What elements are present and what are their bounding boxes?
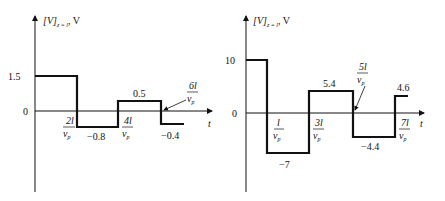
right-tick-l-vp: l vp bbox=[273, 117, 284, 142]
left-plot: [V]z = l, V t 1.5 0 2l vp 4l vp 6l vp −0… bbox=[8, 15, 212, 192]
svg-text:3l: 3l bbox=[314, 117, 323, 128]
left-tick-2l-vp: 2l vp bbox=[63, 115, 75, 140]
left-value-neg0.8: −0.8 bbox=[87, 131, 105, 142]
svg-text:2l: 2l bbox=[66, 115, 74, 126]
right-ytick-10: 10 bbox=[225, 55, 235, 66]
svg-text:vp: vp bbox=[313, 130, 320, 142]
svg-text:7l: 7l bbox=[401, 117, 409, 128]
svg-text:vp: vp bbox=[399, 130, 406, 142]
left-value-0.5: 0.5 bbox=[133, 88, 146, 99]
svg-text:vp: vp bbox=[187, 93, 194, 105]
right-tick-5l-vp: 5l vp bbox=[355, 61, 368, 110]
right-value-neg4.4: −4.4 bbox=[361, 141, 379, 152]
right-ytick-0: 0 bbox=[232, 108, 237, 119]
right-value-neg7: −7 bbox=[279, 159, 290, 170]
right-plot: [V]z = l, V t 10 0 l vp 3l vp 5l vp 7l v… bbox=[225, 15, 424, 192]
left-xlabel: t bbox=[208, 118, 211, 129]
right-xlabel: t bbox=[420, 118, 423, 129]
right-value-5.4: 5.4 bbox=[323, 78, 336, 89]
diagram-canvas: [V]z = l, V t 1.5 0 2l vp 4l vp 6l vp −0… bbox=[0, 0, 445, 201]
left-tick-4l-vp: 4l vp bbox=[122, 115, 133, 140]
left-waveform bbox=[35, 76, 184, 127]
svg-text:vp: vp bbox=[357, 74, 364, 86]
right-ylabel: [V]z = l, V bbox=[253, 15, 291, 28]
svg-text:vp: vp bbox=[122, 128, 129, 140]
right-value-4.6: 4.6 bbox=[397, 82, 410, 93]
svg-text:l: l bbox=[277, 117, 280, 128]
svg-text:vp: vp bbox=[273, 130, 280, 142]
svg-text:4l: 4l bbox=[124, 115, 132, 126]
right-tick-3l-vp: 3l vp bbox=[313, 117, 324, 142]
left-ylabel: [V]z = l, V bbox=[43, 15, 81, 28]
right-waveform bbox=[246, 60, 408, 153]
left-value-neg0.4: −0.4 bbox=[161, 130, 179, 141]
left-ytick-0: 0 bbox=[23, 106, 28, 117]
svg-text:vp: vp bbox=[63, 128, 70, 140]
svg-text:6l: 6l bbox=[189, 80, 197, 91]
svg-text:5l: 5l bbox=[359, 61, 367, 72]
left-ytick-1.5: 1.5 bbox=[8, 71, 21, 82]
right-tick-7l-vp: 7l vp bbox=[399, 117, 410, 142]
left-tick-6l-vp: 6l vp bbox=[164, 80, 198, 110]
